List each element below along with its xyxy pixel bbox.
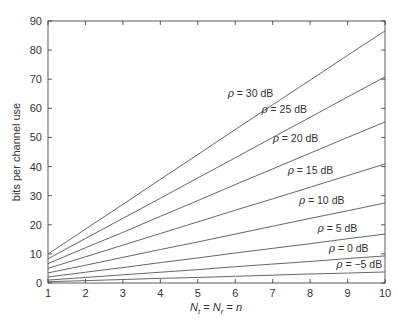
x-tick-label: 9 <box>344 287 350 299</box>
y-tick-label: 80 <box>30 44 42 56</box>
curve-label: ρ = 30 dB <box>227 87 274 99</box>
x-axis-title-eq2: = <box>223 301 236 313</box>
x-tick-label: 1 <box>45 287 51 299</box>
y-tick-label: 70 <box>30 73 42 85</box>
y-axis-title: bits per channel use <box>10 103 22 201</box>
x-axis-title-eq1: = <box>200 301 213 313</box>
y-tick-label: 20 <box>30 219 42 231</box>
x-tick-label: 8 <box>307 287 313 299</box>
curve-label: ρ = −5 dB <box>335 258 382 270</box>
x-tick-label: 4 <box>157 287 163 299</box>
x-tick-label: 6 <box>232 287 238 299</box>
x-axis-title: Nt = Nr = n <box>190 301 242 316</box>
x-tick-label: 10 <box>379 287 391 299</box>
curve-label: ρ = 15 dB <box>287 164 334 176</box>
y-tick-label: 30 <box>30 190 42 202</box>
x-tick-label: 7 <box>270 287 276 299</box>
x-axis-title-n: n <box>236 301 242 313</box>
x-axis-title-n1: N <box>190 301 198 313</box>
curve-label: ρ = 0 dB <box>328 242 369 254</box>
y-tick-label: 60 <box>30 102 42 114</box>
curve-label: ρ = 5 dB <box>317 222 358 234</box>
capacity-chart: 0102030405060708090 12345678910 ρ = 30 d… <box>0 0 398 328</box>
x-tick-label: 2 <box>82 287 88 299</box>
x-tick-label: 5 <box>195 287 201 299</box>
curve-label: ρ = 25 dB <box>260 103 307 115</box>
y-tick-label: 50 <box>30 131 42 143</box>
x-axis-title-n2: N <box>213 301 221 313</box>
y-tick-label: 40 <box>30 161 42 173</box>
y-tick-label: 10 <box>30 248 42 260</box>
curve-label: ρ = 20 dB <box>272 132 319 144</box>
x-tick-label: 3 <box>120 287 126 299</box>
curve-label: ρ = 10 dB <box>298 194 345 206</box>
y-tick-label: 0 <box>36 277 42 289</box>
y-tick-label: 90 <box>30 15 42 27</box>
